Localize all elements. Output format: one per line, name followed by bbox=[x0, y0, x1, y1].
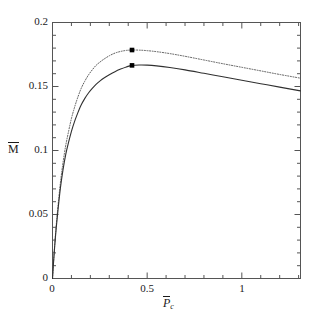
xtick-label-0_5: 0.5 bbox=[130, 283, 164, 294]
xtick-label-0: 0 bbox=[38, 283, 66, 294]
axis-ticks bbox=[53, 23, 301, 279]
ytick-label-0: 0 bbox=[6, 272, 48, 283]
xtick-label-1: 1 bbox=[228, 283, 256, 294]
series-line-lower bbox=[53, 65, 301, 279]
ytick-label-0_2: 0.2 bbox=[6, 16, 48, 27]
data-series-group bbox=[53, 50, 301, 278]
y-axis-title-text: M bbox=[8, 142, 19, 156]
marker-lower bbox=[130, 63, 135, 68]
marker-upper bbox=[130, 48, 135, 53]
x-axis-title: Pc bbox=[163, 296, 174, 310]
ytick-label-0_05: 0.05 bbox=[6, 208, 48, 219]
ytick-label-0_15: 0.15 bbox=[6, 80, 48, 91]
x-axis-title-subscript: c bbox=[170, 302, 174, 311]
y-axis-title: M bbox=[8, 142, 19, 156]
axes-frame bbox=[53, 23, 301, 279]
figure-container: 0.2 0.15 0.1 0.05 0 0 0.5 1 M Pc bbox=[0, 0, 317, 323]
data-point-markers bbox=[130, 48, 135, 68]
